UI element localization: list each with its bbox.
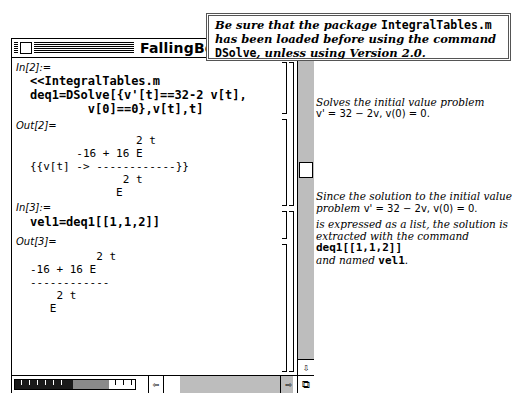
notebook-content: In[2]:= <<IntegralTables.mdeq1=DSolve[{v…: [12, 59, 284, 375]
output-line: 2 t: [30, 134, 189, 147]
resize-grow-box[interactable]: ⧉: [297, 376, 314, 393]
output-line: 2 t: [30, 289, 116, 302]
input-cell-in2[interactable]: <<IntegralTables.mdeq1=DSolve[{v'[t]==32…: [30, 74, 247, 116]
group-bracket-2[interactable]: [289, 62, 294, 206]
left-arrow-icon: ⇦: [153, 378, 160, 391]
right-arrow-icon: ⇨: [285, 378, 292, 391]
cell-label-in3: In[3]:=: [16, 202, 51, 213]
cell-label-out2: Out[2]=: [16, 120, 57, 131]
output-line: -16 + 16 E: [30, 263, 116, 276]
code-line: deq1=DSolve[{v'[t]==32-2 v[t],: [30, 88, 247, 102]
annotation-extract: Since the solution to the initial value …: [316, 190, 512, 267]
cell-bracket-out3[interactable]: [282, 244, 287, 372]
output-line: 2 t: [30, 173, 189, 186]
package-note: Be sure that the package IntegralTables.…: [206, 13, 511, 61]
annotation-dsolve: Solves the initial value problem v' = 32…: [316, 96, 484, 120]
horizontal-scroll-track[interactable]: [180, 376, 293, 393]
cell-bracket-in2[interactable]: [282, 62, 287, 114]
cell-bracket-in3[interactable]: [282, 211, 287, 239]
horizontal-scroll-thumb[interactable]: [164, 377, 180, 392]
note-line-3: DSolve, unless using Version 2.0.: [215, 46, 502, 60]
cell-bracket-out2[interactable]: [282, 119, 287, 206]
cell-label-out3: Out[3]=: [16, 236, 57, 247]
scroll-left-button[interactable]: ⇦: [148, 376, 164, 393]
magnification-gauge[interactable]: [14, 379, 136, 390]
scroll-down-button[interactable]: ⇩: [298, 359, 314, 375]
output-line: 2 t: [30, 250, 116, 263]
output-cell-out3[interactable]: 2 t-16 + 16 E------------ 2 t E: [30, 250, 116, 315]
note-line-2: has been loaded before using the command: [215, 32, 502, 46]
output-line: ------------: [30, 276, 116, 289]
vertical-scrollbar[interactable]: ⇩: [297, 59, 314, 375]
horizontal-scrollbar-bar: ⇦ ⇨ ⧉: [12, 375, 314, 393]
output-line: E: [30, 186, 189, 199]
output-line: -16 + 16 E: [30, 147, 189, 160]
down-arrow-icon: ⇩: [303, 361, 310, 374]
cell-label-in2: In[2]:=: [16, 62, 51, 73]
note-line-1: Be sure that the package IntegralTables.…: [215, 18, 502, 32]
grow-box-icon: ⧉: [302, 378, 310, 391]
input-cell-in3[interactable]: vel1=deq1[[1,1,2]]: [30, 215, 160, 229]
notebook-window: FallingBodies In[2]:= <<IntegralTables.m…: [11, 38, 314, 393]
code-line: vel1=deq1[[1,1,2]]: [30, 215, 160, 229]
output-line: {{v[t] -> ------------}}: [30, 160, 189, 173]
group-bracket-3[interactable]: [289, 211, 294, 372]
output-line: E: [30, 302, 116, 315]
close-box[interactable]: [20, 42, 32, 54]
scroll-right-button[interactable]: ⇨: [280, 376, 296, 393]
code-line: v[0]==0},v[t],t]: [30, 102, 247, 116]
title-bar-stripes: [14, 42, 134, 54]
vertical-scroll-thumb[interactable]: [299, 162, 313, 178]
code-line: <<IntegralTables.m: [30, 74, 247, 88]
output-cell-out2[interactable]: 2 t -16 + 16 E{{v[t] -> ------------}} 2…: [30, 134, 189, 199]
